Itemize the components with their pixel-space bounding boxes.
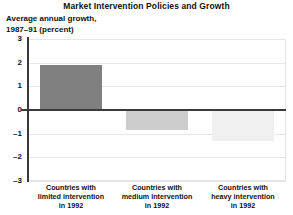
category-label: Countries with limited intervention in 1… [28,183,114,215]
y-tick-label: –1 [13,130,22,138]
bar [126,110,188,130]
gridline [28,181,286,182]
plot-area: 3210–1–2–3 [28,39,286,181]
y-tick-label: 2 [18,59,22,67]
gridline [28,63,286,64]
y-tick-label: 1 [18,82,22,90]
y-tick-label: 3 [18,35,22,43]
y-tick-label: –3 [13,177,22,185]
x-axis-category-labels: Countries with limited intervention in 1… [28,183,286,215]
bar [212,110,274,141]
gridline [28,39,286,40]
category-label: Countries with heavy intervention in 199… [200,183,286,215]
y-tick-label: –2 [13,153,22,161]
y-axis-caption: Average annual growth, 1987–91 (percent) [6,14,96,35]
chart-title: Market Intervention Policies and Growth [0,1,293,11]
gridline [28,157,286,158]
category-label: Countries with medium intervention in 19… [114,183,200,215]
zero-baseline [21,109,286,111]
chart-figure: Market Intervention Policies and Growth … [0,0,293,215]
bar [40,65,102,110]
y-axis-line [27,37,29,182]
